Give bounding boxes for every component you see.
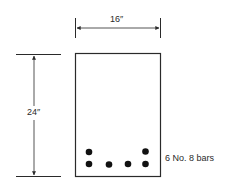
rebar-upper-right — [142, 148, 149, 155]
rebar-lower-3 — [125, 161, 132, 168]
rebar-lower-4 — [142, 161, 149, 168]
beam-outline — [76, 54, 161, 177]
rebar-lower-1 — [86, 161, 93, 168]
height-label: 24″ — [26, 107, 41, 117]
rebar-lower-2 — [106, 161, 113, 168]
reinforcing-bars — [86, 148, 149, 168]
width-label: 16″ — [110, 14, 123, 24]
reinforcement-label: 6 No. 8 bars — [165, 153, 214, 163]
rebar-upper-left — [86, 149, 93, 156]
